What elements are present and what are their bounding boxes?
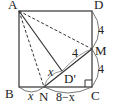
- segment-am-dashed: [19, 11, 92, 49]
- segment-adprime: [19, 11, 62, 71]
- measure-nc: 8−x: [56, 90, 75, 104]
- label-n: N: [39, 89, 49, 104]
- measure-dm: 4: [98, 23, 104, 37]
- square-abcd: [19, 11, 92, 87]
- measure-mc: 4: [98, 62, 104, 76]
- label-m: M: [95, 43, 107, 58]
- label-a: A: [8, 0, 18, 12]
- label-b: B: [5, 86, 14, 101]
- geometry-diagram: A D B C M N D' 4 4 4 x x 8−x: [0, 0, 114, 104]
- measure-mdprime: 4: [72, 46, 78, 60]
- right-angle-marker: [85, 80, 92, 87]
- measure-ndprime: x: [47, 65, 54, 79]
- segment-an-dashed: [19, 11, 44, 87]
- label-d: D: [94, 0, 103, 12]
- measure-bn: x: [27, 89, 34, 103]
- label-c: C: [91, 88, 100, 103]
- label-dprime: D': [64, 71, 76, 86]
